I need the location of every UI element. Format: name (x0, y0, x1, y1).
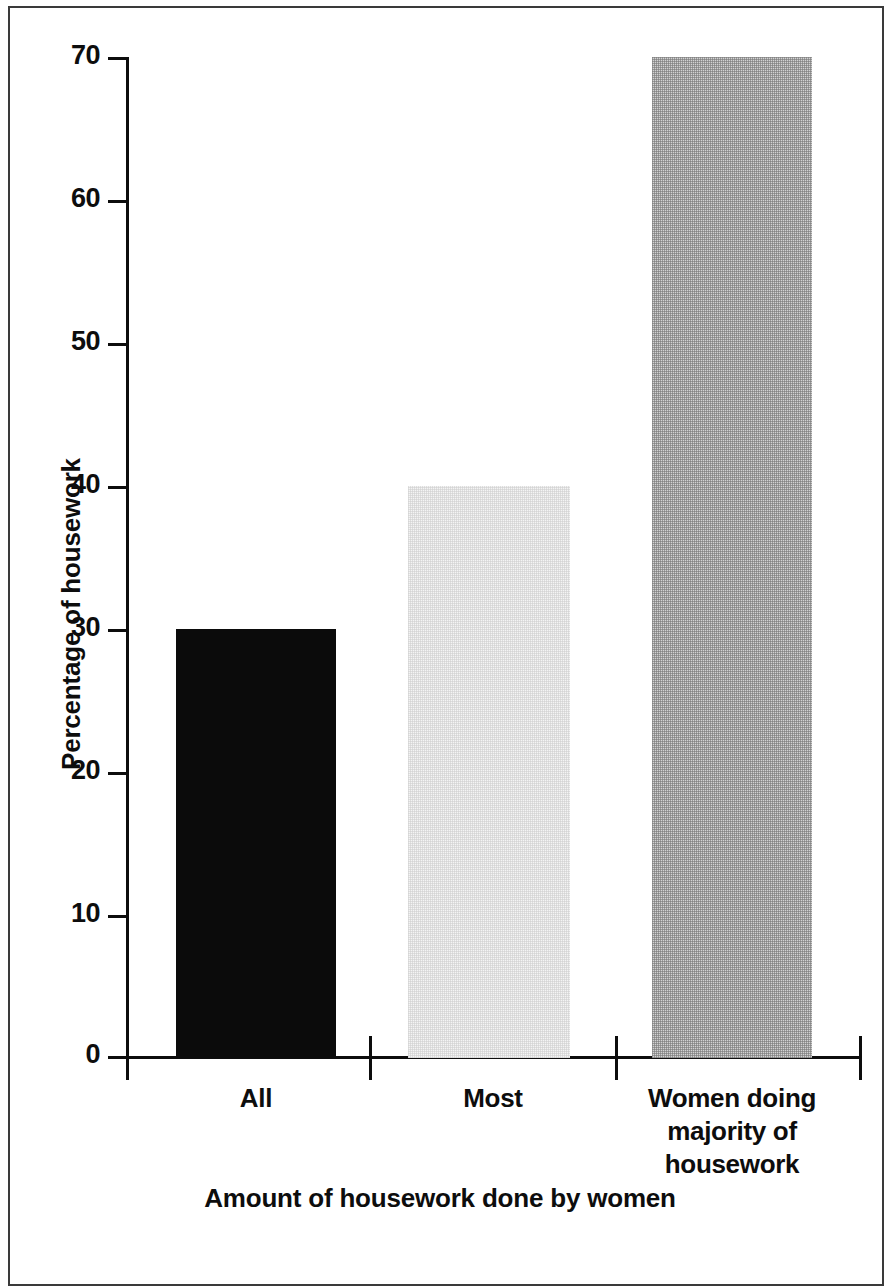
x-category-label-most-line-1: Most (389, 1082, 597, 1115)
y-tick-mark-10 (108, 915, 127, 918)
y-axis-line (126, 57, 129, 1060)
x-category-label-women-doing-majority-of-housework: Women doing majority of housework (632, 1082, 832, 1180)
y-tick-label-0: 0 (36, 1039, 100, 1070)
y-tick-mark-30 (108, 629, 127, 632)
y-tick-label-10: 10 (36, 898, 100, 929)
x-category-label-most: Most (389, 1082, 597, 1115)
y-tick-label-60-wrap: 60 (24, 183, 100, 217)
x-category-label-women-line-1: Women doing (632, 1082, 832, 1115)
x-tick-mark-1 (369, 1036, 372, 1080)
y-tick-label-70: 70 (36, 40, 100, 71)
x-axis-title: Amount of housework done by women (0, 1183, 880, 1214)
x-category-label-all-line-1: All (156, 1082, 356, 1115)
y-tick-mark-40 (108, 486, 127, 489)
x-tick-mark-left (126, 1036, 129, 1080)
x-category-label-women-line-3: housework (632, 1148, 832, 1181)
y-tick-label-70-wrap: 70 (24, 40, 100, 74)
x-tick-mark-right (859, 1036, 862, 1080)
y-tick-mark-60 (108, 200, 127, 203)
x-tick-mark-2 (615, 1036, 618, 1080)
x-category-label-women-line-2: majority of (632, 1115, 832, 1148)
x-category-label-all: All (156, 1082, 356, 1115)
y-tick-label-50-wrap: 50 (24, 326, 100, 360)
y-tick-mark-50 (108, 343, 127, 346)
y-tick-label-10-wrap: 10 (24, 898, 100, 932)
y-tick-label-50: 50 (36, 326, 100, 357)
y-tick-mark-20 (108, 772, 127, 775)
bar-all[interactable] (176, 629, 336, 1058)
y-axis-title: Percentage of housework (56, 458, 87, 770)
y-tick-label-60: 60 (36, 183, 100, 214)
y-tick-mark-0 (108, 1056, 127, 1059)
y-tick-label-0-wrap: 0 (24, 1039, 100, 1073)
bar-most[interactable] (408, 486, 570, 1058)
y-tick-mark-70 (108, 57, 127, 60)
bar-women-doing-majority-of-housework[interactable] (652, 57, 812, 1058)
